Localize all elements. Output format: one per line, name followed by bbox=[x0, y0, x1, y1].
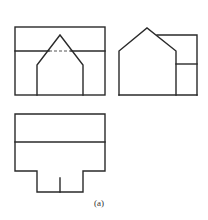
front-view bbox=[15, 27, 105, 95]
front-pentagon bbox=[37, 35, 83, 95]
front-outer-rect bbox=[15, 27, 105, 95]
side-view bbox=[119, 28, 197, 95]
figure-caption: (a) bbox=[94, 198, 104, 208]
side-right-box bbox=[157, 35, 197, 95]
top-view bbox=[15, 114, 105, 192]
orthographic-drawing bbox=[0, 0, 208, 220]
side-pentagon bbox=[119, 28, 176, 95]
